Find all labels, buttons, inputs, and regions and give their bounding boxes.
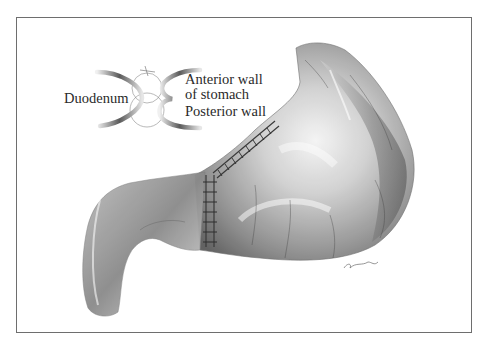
stomach-illustration: [0, 0, 485, 347]
anterior-wall-label: Anterior wall: [185, 72, 263, 87]
duodenum: [83, 172, 205, 316]
posterior-wall-label: Posterior wall: [185, 104, 266, 119]
artist-signature: [344, 262, 378, 268]
duodenum-label: Duodenum: [64, 91, 128, 106]
of-stomach-label: of stomach: [185, 87, 249, 102]
